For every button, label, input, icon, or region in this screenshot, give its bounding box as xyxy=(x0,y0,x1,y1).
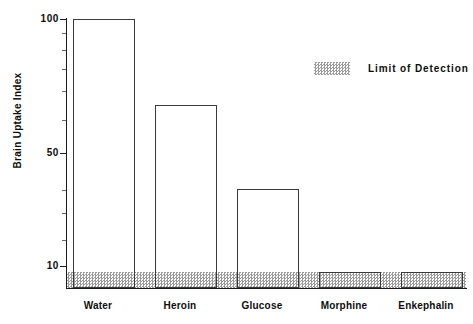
y-tick-10 xyxy=(60,266,66,267)
x-axis-label-heroin: Heroin xyxy=(140,300,220,311)
x-axis-label-water: Water xyxy=(58,300,138,311)
chart-container: Brain Uptake Index 100 50 10 Water Heroi… xyxy=(0,0,473,324)
chart-legend: Limit of Detection xyxy=(314,62,469,75)
y-tick-100 xyxy=(60,19,66,20)
bar-glucose[interactable] xyxy=(237,189,299,288)
y-minor-tick-80 xyxy=(62,50,66,51)
y-tick-label-50: 50 xyxy=(19,148,59,158)
plot-area xyxy=(67,19,466,288)
bar-water[interactable] xyxy=(73,19,135,288)
y-tick-label-100: 100 xyxy=(19,14,59,24)
y-minor-tick-60 xyxy=(62,91,66,92)
y-minor-tick-30 xyxy=(62,213,66,214)
y-minor-tick-20 xyxy=(62,240,66,241)
y-tick-50 xyxy=(60,153,66,154)
x-axis-label-glucose: Glucose xyxy=(222,300,302,311)
bar-enkephalin[interactable] xyxy=(401,272,463,288)
y-minor-tick-50b xyxy=(62,120,66,121)
x-axis-label-enkephalin: Enkephalin xyxy=(386,300,466,311)
y-tick-label-10: 10 xyxy=(19,261,59,271)
bar-heroin[interactable] xyxy=(155,105,217,288)
y-minor-tick-70 xyxy=(62,69,66,70)
bar-morphine[interactable] xyxy=(319,272,381,288)
x-axis-line xyxy=(66,288,467,289)
x-axis-label-morphine: Morphine xyxy=(304,300,384,311)
y-minor-tick-40 xyxy=(62,190,66,191)
y-axis-title: Brain Uptake Index xyxy=(12,41,23,201)
y-minor-tick-90 xyxy=(62,33,66,34)
legend-swatch-limit-of-detection xyxy=(314,62,350,75)
legend-label-limit-of-detection: Limit of Detection xyxy=(368,63,469,74)
